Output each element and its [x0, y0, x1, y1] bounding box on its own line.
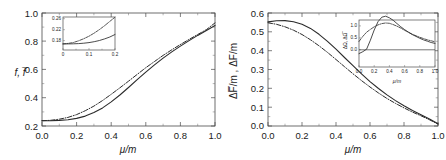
left-xtick-4: 0.6 — [139, 130, 152, 141]
left-x-ticklabels: 0.0 0.2 0.4 0.6 0.8 1.0 — [35, 130, 221, 141]
left-ytick-3: 0.6 — [25, 64, 38, 75]
chart-panel-right: 0.6 0.5 0.4 0.3 0.2 0.1 0.0 ΔF̅/m , ΔF/m — [223, 0, 446, 160]
left-xtick-1: 0.0 — [35, 130, 48, 141]
left-ytick-2: 0.4 — [25, 92, 38, 103]
right-inset-xaxis-title: μ/m — [392, 78, 401, 84]
right-ytick-3: 0.2 — [251, 83, 264, 94]
right-xtick-6: 1.0 — [431, 130, 444, 141]
right-x-ticklabels: 0.0 0.2 0.4 0.6 0.8 1.0 — [261, 130, 444, 141]
right-inset-xtick-5: 0.8 — [417, 69, 424, 74]
right-ytick-4: 0.3 — [251, 64, 264, 75]
left-inset-ytick-3: 0.26 — [52, 16, 61, 21]
right-inset-xtick-6: 1.0 — [432, 69, 439, 74]
right-inset-xtick-2: 0.2 — [371, 69, 378, 74]
right-inset-ytick-1: 0.0 — [351, 47, 358, 52]
left-panel-svg: 1.0 0.8 0.6 0.4 0.2 f, f̅ — [0, 0, 223, 160]
right-inset-xtick-1: 0.0 — [356, 69, 363, 74]
right-ytick-6: 0.5 — [251, 26, 264, 37]
left-xtick-3: 0.4 — [105, 130, 118, 141]
left-inset-ytick-1: 0.18 — [52, 38, 61, 43]
right-ytick-7: 0.6 — [251, 8, 264, 19]
left-inset-xtick-1: 0 — [62, 52, 65, 57]
right-yaxis-title: ΔF̅/m , ΔF/m — [228, 43, 239, 99]
right-ytick-2: 0.1 — [251, 102, 264, 113]
right-y-ticklabels: 0.6 0.5 0.4 0.3 0.2 0.1 0.0 — [251, 8, 264, 132]
right-inset-yaxis-title: ΔΩ, ΔΩ̅ — [342, 31, 348, 50]
figure-container: 1.0 0.8 0.6 0.4 0.2 f, f̅ — [0, 0, 446, 160]
right-inset-xtick-4: 0.6 — [401, 69, 408, 74]
left-y-ticklabels: 1.0 0.8 0.6 0.4 0.2 — [25, 8, 38, 132]
right-inset-ytick-2: 0.5 — [351, 35, 358, 40]
left-inset-xtick-2: 0.1 — [86, 52, 93, 57]
right-inset-ytick-3: 1.0 — [351, 23, 358, 28]
right-xtick-5: 0.8 — [397, 130, 410, 141]
chart-panel-left: 1.0 0.8 0.6 0.4 0.2 f, f̅ — [0, 0, 223, 160]
right-panel-svg: 0.6 0.5 0.4 0.3 0.2 0.1 0.0 ΔF̅/m , ΔF/m — [223, 0, 446, 160]
left-inset-xtick-3: 0.2 — [112, 52, 119, 57]
right-xtick-1: 0.0 — [261, 130, 274, 141]
right-ytick-5: 0.4 — [251, 45, 264, 56]
left-xaxis-title: μ/m — [119, 144, 137, 155]
right-xtick-3: 0.4 — [329, 130, 342, 141]
right-xtick-2: 0.2 — [295, 130, 308, 141]
left-ytick-4: 0.8 — [25, 36, 38, 47]
left-inset-frame — [63, 17, 115, 50]
left-inset-ytick-2: 0.22 — [52, 27, 61, 32]
right-xaxis-title: μ/m — [344, 144, 362, 155]
left-xtick-6: 1.0 — [208, 130, 221, 141]
left-xtick-5: 0.8 — [174, 130, 187, 141]
left-ytick-5: 1.0 — [25, 8, 38, 19]
left-xtick-2: 0.2 — [70, 130, 83, 141]
right-inset-xtick-3: 0.4 — [386, 69, 393, 74]
right-inset-frame — [359, 20, 435, 67]
right-xtick-4: 0.6 — [363, 130, 376, 141]
